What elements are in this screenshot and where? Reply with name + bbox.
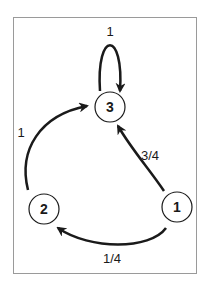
diagram-frame bbox=[14, 18, 197, 274]
edge-2-3 bbox=[26, 106, 87, 190]
state-diagram: 1 1 3/4 1/4 3 2 1 bbox=[0, 0, 210, 283]
edge-3-3 bbox=[100, 45, 121, 91]
node-2: 2 bbox=[29, 194, 59, 224]
edge-3-3-label: 1 bbox=[106, 24, 113, 39]
edge-1-2 bbox=[58, 228, 166, 245]
node-1: 1 bbox=[162, 192, 192, 222]
edge-1-3-label: 3/4 bbox=[141, 148, 159, 163]
edge-2-3-label: 1 bbox=[17, 125, 24, 140]
node-1-label: 1 bbox=[173, 199, 181, 215]
node-3-label: 3 bbox=[106, 99, 114, 115]
node-3: 3 bbox=[95, 92, 125, 122]
node-2-label: 2 bbox=[40, 201, 48, 217]
edge-1-2-label: 1/4 bbox=[103, 251, 121, 266]
